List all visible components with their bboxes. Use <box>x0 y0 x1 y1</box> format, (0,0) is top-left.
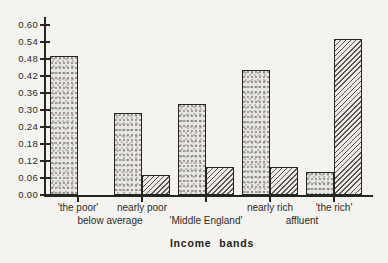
y-axis-tick <box>40 109 50 111</box>
bar-stippled-middle-england <box>178 104 206 195</box>
x-axis-tick <box>77 195 79 202</box>
y-axis-tick-label: 0.30 <box>6 104 38 115</box>
y-axis-tick <box>40 75 50 77</box>
bar-stippled-nearly-poor <box>114 113 142 195</box>
y-axis-tick-label: 0.48 <box>6 53 38 64</box>
bar-hatched-nearly-rich <box>270 167 298 195</box>
x-axis-label: below average <box>77 215 142 226</box>
x-axis-tick <box>205 195 207 202</box>
y-axis-tick-label: 0.18 <box>6 138 38 149</box>
bar-stippled-nearly-rich <box>242 70 270 195</box>
y-axis-tick-label: 0.54 <box>6 36 38 47</box>
y-axis-tick-label: 0.42 <box>6 70 38 81</box>
bar-hatched-the-rich <box>334 39 362 195</box>
y-axis-tick-label: 0.12 <box>6 155 38 166</box>
y-axis-tick <box>40 160 50 162</box>
x-axis-label: 'the poor' <box>58 202 99 213</box>
bar-stippled-the-poor <box>50 56 78 195</box>
x-axis-line <box>44 195 373 197</box>
x-axis-label: 'the rich' <box>316 202 353 213</box>
scanned-chart-page: Income bands 0.000.060.120.180.240.300.3… <box>0 0 388 263</box>
y-axis-line <box>44 17 46 197</box>
y-axis-tick <box>40 194 50 196</box>
x-axis-label: affluent <box>286 215 319 226</box>
income-bands-bar-chart: Income bands 0.000.060.120.180.240.300.3… <box>0 0 388 263</box>
y-axis-tick <box>40 41 50 43</box>
x-axis-title: Income bands <box>170 237 254 249</box>
y-axis-tick-label: 0.00 <box>6 189 38 200</box>
y-axis-tick <box>40 126 50 128</box>
y-axis-tick <box>40 92 50 94</box>
y-axis-tick-label: 0.24 <box>6 121 38 132</box>
y-axis-tick <box>40 143 50 145</box>
x-axis-tick <box>333 195 335 202</box>
x-axis-tick <box>269 195 271 202</box>
bar-stippled-the-rich <box>306 172 334 195</box>
y-axis-tick-label: 0.06 <box>6 172 38 183</box>
y-axis-tick-label: 0.60 <box>6 19 38 30</box>
bar-hatched-nearly-poor <box>142 175 170 195</box>
y-axis-tick <box>40 24 50 26</box>
bar-hatched-middle-england <box>206 167 234 195</box>
x-axis-label: nearly poor <box>117 202 167 213</box>
y-axis-tick <box>40 177 50 179</box>
x-axis-tick <box>141 195 143 202</box>
y-axis-tick <box>40 58 50 60</box>
x-axis-label: 'Middle England' <box>170 215 243 226</box>
y-axis-tick-label: 0.36 <box>6 87 38 98</box>
x-axis-label: nearly rich <box>247 202 293 213</box>
